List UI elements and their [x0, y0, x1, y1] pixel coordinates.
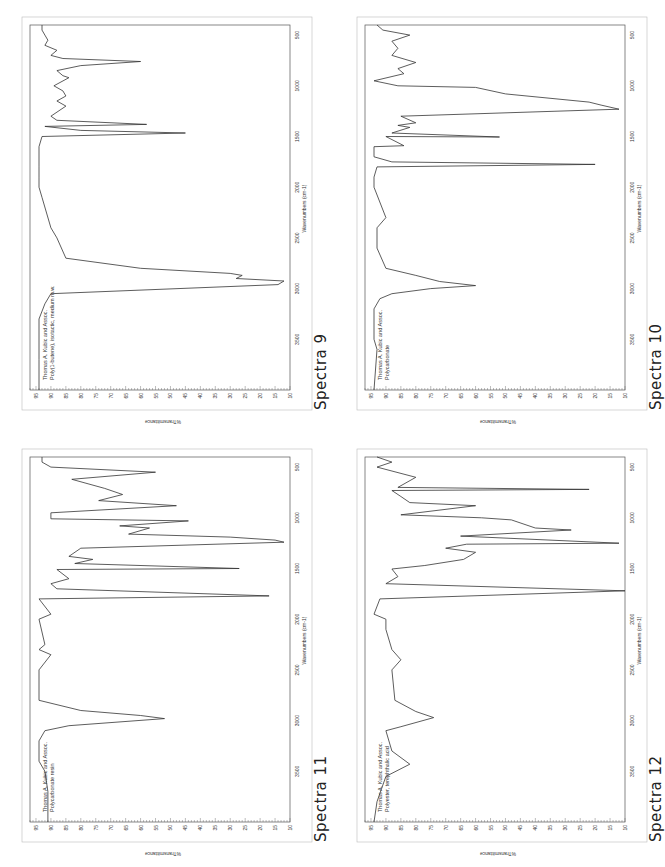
y-tick-label: 10 — [622, 393, 628, 409]
y-axis-label: %Transmittance — [480, 851, 516, 857]
spectrum-line — [39, 457, 284, 822]
panel-border — [357, 449, 647, 842]
annotation-credit: Thomas A. Kubic and Assoc. — [42, 286, 49, 380]
y-tick-label: 35 — [547, 825, 553, 841]
annotation-credit: Thomas A. Kubic and Assoc. — [42, 742, 49, 812]
x-tick-label: 2500 — [629, 228, 635, 248]
y-tick-label: 60 — [138, 393, 144, 409]
spectrum-chart: 9590858075706560555045403530252015103500… — [0, 432, 330, 862]
spectrum-annotation: Thomas A. Kubic and Assoc.Polycarbonate … — [42, 742, 56, 812]
panel-border — [357, 17, 647, 410]
y-tick-label: 70 — [108, 825, 114, 841]
y-tick-label: 20 — [592, 825, 598, 841]
y-tick-label: 35 — [547, 393, 553, 409]
x-tick-label: 1500 — [629, 127, 635, 147]
y-tick-label: 90 — [383, 825, 389, 841]
x-tick-label: 500 — [629, 25, 635, 45]
y-tick-label: 25 — [577, 393, 583, 409]
x-tick-label: 3500 — [294, 761, 300, 781]
y-tick-label: 60 — [473, 825, 479, 841]
x-tick-label: 2000 — [629, 177, 635, 197]
y-tick-label: 30 — [562, 825, 568, 841]
y-tick-label: 50 — [502, 825, 508, 841]
y-tick-label: 70 — [108, 393, 114, 409]
y-tick-label: 85 — [63, 393, 69, 409]
y-tick-label: 80 — [78, 393, 84, 409]
y-tick-label: 15 — [607, 393, 613, 409]
spectrum-chart: 9590858075706560555045403530252015103500… — [335, 432, 665, 862]
y-tick-label: 95 — [33, 825, 39, 841]
y-tick-label: 65 — [458, 825, 464, 841]
y-tick-label: 50 — [167, 393, 173, 409]
y-tick-label: 30 — [562, 393, 568, 409]
spectrum-line — [39, 25, 284, 390]
x-tick-label: 3000 — [294, 279, 300, 299]
plot-frame — [30, 25, 290, 390]
y-tick-label: 40 — [532, 393, 538, 409]
spectrum-caption: Spectra 12 — [647, 755, 665, 842]
x-tick-label: 1500 — [294, 127, 300, 147]
y-tick-label: 90 — [383, 393, 389, 409]
y-tick-label: 80 — [413, 393, 419, 409]
y-tick-label: 85 — [398, 393, 404, 409]
spectrum-annotation: Thomas A. Kubic and Assoc.Polycarbonate — [377, 310, 391, 380]
y-tick-label: 95 — [368, 393, 374, 409]
y-axis-label: %Transmittance — [145, 851, 181, 857]
y-tick-label: 10 — [287, 393, 293, 409]
y-tick-label: 60 — [473, 393, 479, 409]
y-tick-label: 85 — [63, 825, 69, 841]
x-tick-label: 2500 — [294, 660, 300, 680]
y-tick-label: 20 — [592, 393, 598, 409]
y-tick-label: 75 — [93, 393, 99, 409]
panel-spectra-12: 9590858075706560555045403530252015103500… — [335, 432, 665, 862]
x-tick-label: 1000 — [294, 508, 300, 528]
y-tick-label: 80 — [78, 825, 84, 841]
y-tick-label: 15 — [272, 393, 278, 409]
x-tick-label: 3500 — [629, 761, 635, 781]
y-tick-label: 30 — [227, 825, 233, 841]
spectrum-annotation: Thomas A. Kubic and Assoc.Polyester, ter… — [377, 742, 391, 812]
y-tick-label: 95 — [368, 825, 374, 841]
x-axis-label: Wavenumbers (cm-1) — [301, 185, 307, 233]
x-tick-label: 500 — [294, 25, 300, 45]
panel-spectra-10: 9590858075706560555045403530252015103500… — [335, 0, 665, 430]
y-tick-label: 55 — [153, 393, 159, 409]
panel-spectra-9: 9590858075706560555045403530252015103500… — [0, 0, 330, 430]
x-tick-label: 2500 — [629, 660, 635, 680]
y-tick-label: 50 — [167, 825, 173, 841]
y-tick-label: 35 — [212, 825, 218, 841]
annotation-sample: Polyester, terephthalic acid — [384, 742, 391, 812]
y-tick-label: 45 — [517, 393, 523, 409]
annotation-credit: Thomas A. Kubic and Assoc. — [377, 310, 384, 380]
x-tick-label: 1500 — [294, 559, 300, 579]
x-axis-label: Wavenumbers (cm-1) — [636, 617, 642, 665]
y-tick-label: 85 — [398, 825, 404, 841]
annotation-sample: Polycarbonate — [384, 310, 391, 380]
y-tick-label: 75 — [428, 825, 434, 841]
y-tick-label: 15 — [272, 825, 278, 841]
y-tick-label: 90 — [48, 825, 54, 841]
x-tick-label: 500 — [629, 457, 635, 477]
y-tick-label: 75 — [93, 825, 99, 841]
y-tick-label: 65 — [458, 393, 464, 409]
y-axis-label: %Transmittance — [480, 419, 516, 425]
spectrum-line — [374, 457, 625, 822]
y-tick-label: 25 — [242, 825, 248, 841]
spectrum-caption: Spectra 11 — [312, 755, 330, 842]
spectrum-line — [374, 25, 619, 390]
x-tick-label: 3000 — [629, 711, 635, 731]
y-tick-label: 25 — [242, 393, 248, 409]
x-tick-label: 2000 — [629, 609, 635, 629]
x-tick-label: 500 — [294, 457, 300, 477]
y-tick-label: 60 — [138, 825, 144, 841]
y-tick-label: 30 — [227, 393, 233, 409]
y-tick-label: 10 — [287, 825, 293, 841]
panel-spectra-11: 9590858075706560555045403530252015103500… — [0, 432, 330, 862]
x-axis-label: Wavenumbers (cm-1) — [636, 185, 642, 233]
y-tick-label: 40 — [532, 825, 538, 841]
y-tick-label: 50 — [502, 393, 508, 409]
y-axis-label: %Transmittance — [145, 419, 181, 425]
annotation-sample: Poly(1-butene), isotactic, medium m.w. — [49, 286, 56, 380]
x-tick-label: 1500 — [629, 559, 635, 579]
panel-border — [22, 449, 312, 842]
